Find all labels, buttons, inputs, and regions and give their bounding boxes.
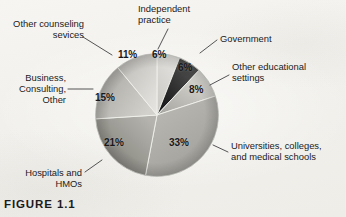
pie-value-business-consulting: 15%	[95, 92, 115, 103]
figure-caption: FIGURE 1.1	[4, 198, 76, 210]
pie-chart-graphic	[95, 53, 219, 177]
pie-label-hospitals-hmos: Hospitals and HMOs	[6, 167, 82, 189]
figure-pie-chart: 11% 6% 6% 8% 15% 21% 33% Other counselin…	[0, 0, 346, 217]
pie-svg	[95, 53, 219, 177]
pie-value-government: 6%	[178, 62, 192, 73]
pie-value-hospitals-hmos: 21%	[104, 137, 124, 148]
pie-label-business-consulting: Business, Consulting, Other	[4, 72, 66, 106]
pie-value-independent-practice: 6%	[152, 49, 166, 60]
leader-government	[200, 40, 217, 53]
leader-independent-practice	[158, 29, 168, 49]
pie-label-other-counseling: Other counseling sevices	[8, 18, 84, 40]
pie-label-independent-practice: Independent practice	[138, 3, 208, 25]
pie-label-universities: Universities, colleges, and medical scho…	[231, 140, 343, 162]
pie-label-government: Government	[220, 33, 290, 44]
pie-label-other-educational: Other educational settings	[232, 61, 338, 83]
pie-value-universities: 33%	[169, 137, 189, 148]
pie-value-other-counseling: 11%	[118, 49, 137, 60]
pie-value-other-educational: 8%	[189, 84, 203, 95]
